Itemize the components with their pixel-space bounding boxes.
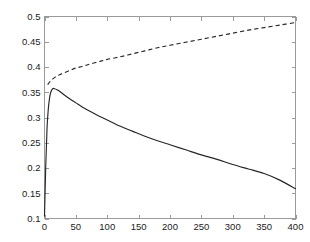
y-tick-label-4: 0.3: [27, 112, 40, 123]
y-tick-label-1: 0.15: [22, 188, 41, 199]
y-tick-label-5: 0.35: [22, 87, 41, 98]
x-tick-label-1: 50: [71, 221, 82, 232]
x-tick-label-5: 250: [193, 221, 209, 232]
figure-background: [0, 0, 310, 242]
y-tick-label-0: 0.1: [27, 213, 40, 224]
y-tick-label-3: 0.25: [22, 137, 41, 148]
x-axis-tick-labels: 050100150200250300350400: [42, 221, 304, 232]
y-tick-label-7: 0.45: [22, 36, 41, 47]
x-tick-label-8: 400: [288, 221, 304, 232]
x-tick-label-3: 150: [131, 221, 147, 232]
x-tick-label-0: 0: [42, 221, 47, 232]
figure-container: 050100150200250300350400 0.10.150.20.250…: [0, 0, 310, 242]
y-tick-label-8: 0.5: [27, 11, 40, 22]
y-tick-label-2: 0.2: [27, 162, 40, 173]
x-tick-label-4: 200: [162, 221, 178, 232]
y-tick-label-6: 0.4: [27, 61, 40, 72]
x-tick-label-6: 300: [225, 221, 241, 232]
x-tick-label-7: 350: [256, 221, 272, 232]
chart-plot: 050100150200250300350400 0.10.150.20.250…: [0, 0, 310, 242]
x-tick-label-2: 100: [99, 221, 115, 232]
